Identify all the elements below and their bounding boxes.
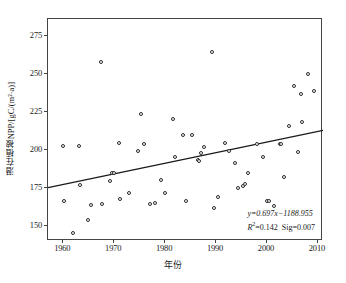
data-point	[173, 155, 177, 159]
x-tick-label: 1960	[54, 243, 70, 253]
regression-stats: R2=0.142 Sig=0.007	[247, 220, 315, 233]
data-point	[62, 199, 66, 203]
data-point	[153, 201, 157, 205]
plot-area: y=0.697x−1188.955 R2=0.142 Sig=0.007	[47, 18, 322, 240]
y-axis-label-wrap: 潜在植被NPP/[gC/(m²·a)]	[4, 34, 18, 224]
data-point	[246, 171, 250, 175]
x-tick-label: 1970	[105, 243, 121, 253]
data-point	[282, 175, 286, 179]
y-tick-label: 250	[30, 68, 42, 78]
y-tick-label: 200	[30, 144, 42, 154]
regression-line	[48, 130, 323, 187]
data-point	[136, 149, 140, 153]
data-point	[77, 144, 81, 148]
data-point	[306, 72, 310, 76]
data-point	[100, 202, 104, 206]
data-point	[112, 171, 116, 175]
data-point	[171, 117, 175, 121]
data-point	[216, 195, 220, 199]
scatter-chart-figure: 潜在植被NPP/[gC/(m²·a)] 150175200225250275 1…	[0, 0, 346, 283]
x-tick-label: 1980	[156, 243, 172, 253]
data-point	[199, 151, 203, 155]
x-tick-label: 1990	[207, 243, 223, 253]
y-tick-label: 175	[30, 182, 42, 192]
x-tick-label: 2000	[258, 243, 274, 253]
y-axis-label: 潜在植被NPP/[gC/(m²·a)]	[5, 82, 17, 175]
data-point	[296, 150, 300, 154]
regression-equation: y=0.697x−1188.955	[247, 208, 315, 220]
y-tick-label: 275	[30, 30, 42, 40]
data-point	[89, 203, 93, 207]
data-point	[210, 50, 214, 54]
data-point	[142, 142, 146, 146]
regression-stats-text: =0.142 Sig=0.007	[255, 222, 315, 231]
data-point	[99, 60, 103, 64]
data-point	[202, 145, 206, 149]
y-tick-label: 225	[30, 106, 42, 116]
data-point	[197, 159, 201, 163]
data-point	[227, 149, 231, 153]
data-point	[243, 182, 247, 186]
x-tick-label: 2010	[309, 243, 325, 253]
data-point	[299, 92, 303, 96]
data-point	[78, 183, 82, 187]
data-point	[148, 202, 152, 206]
regression-annotation: y=0.697x−1188.955 R2=0.142 Sig=0.007	[247, 208, 315, 233]
x-axis-label: 年份	[0, 258, 346, 271]
y-tick-label: 150	[30, 220, 42, 230]
